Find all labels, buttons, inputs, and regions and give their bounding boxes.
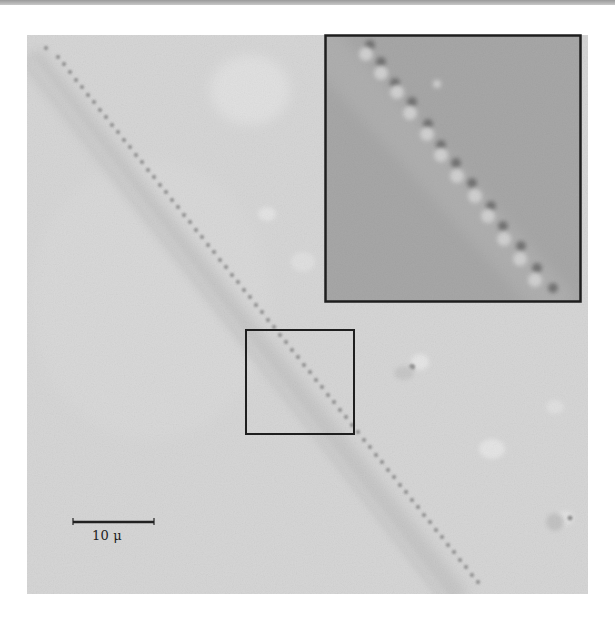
magnified-inset xyxy=(300,20,581,310)
scale-bar-label: 10 μ xyxy=(92,528,122,543)
